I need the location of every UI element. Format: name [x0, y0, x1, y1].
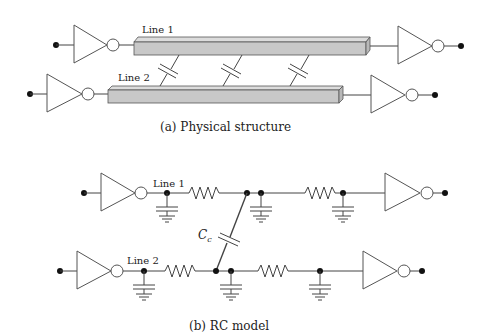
output-terminal-dot — [442, 190, 448, 196]
rc-line1-receiver-inverter — [385, 173, 448, 211]
rc-line2-receiver-inverter — [363, 251, 425, 289]
inverter-triangle-icon — [47, 74, 82, 112]
rc-model: Line 1 — [57, 173, 448, 333]
inverter-triangle-icon — [371, 75, 405, 113]
inverter-bubble-icon — [111, 265, 123, 277]
inverter-bubble-icon — [432, 40, 444, 52]
inverter-triangle-icon — [74, 25, 107, 63]
inverter-bubble-icon — [406, 89, 418, 101]
coupling-cap-label: Cc — [198, 228, 212, 244]
inverter-bubble-icon — [107, 39, 119, 51]
line1-receiver-inverter — [370, 26, 464, 64]
inverter-triangle-icon — [398, 26, 432, 64]
coupling-capacitor-3 — [288, 55, 309, 86]
line1-label: Line 1 — [142, 24, 174, 35]
inverter-bubble-icon — [135, 187, 147, 199]
physical-structure: Line 1 Line 2 — [27, 24, 464, 134]
crosstalk-diagram: Line 1 Line 2 — [0, 0, 477, 335]
rc-line2-ground-cap-3 — [309, 271, 331, 300]
rc-line2-wire — [123, 265, 363, 277]
coupling-capacitor-2 — [221, 55, 242, 86]
rc-line2-label: Line 2 — [127, 255, 159, 266]
inverter-triangle-icon — [77, 251, 111, 289]
inverter-triangle-icon — [385, 173, 420, 211]
line1-bar — [134, 37, 370, 55]
rc-line2-ground-cap-2 — [220, 271, 242, 300]
caption-physical-structure: (a) Physical structure — [160, 120, 291, 134]
line1-driver-inverter — [53, 25, 134, 63]
caption-rc-model: (b) RC model — [189, 319, 269, 333]
rc-line1-driver-inverter — [81, 173, 147, 211]
inverter-triangle-icon — [101, 173, 135, 211]
line2-label: Line 2 — [118, 72, 150, 83]
line2-receiver-inverter — [343, 75, 438, 113]
rc-line1-ground-cap-1 — [156, 193, 178, 222]
inverter-bubble-icon — [82, 88, 94, 100]
line2-driver-inverter — [27, 74, 108, 112]
output-terminal-dot — [432, 92, 438, 98]
rc-line2-driver-inverter — [57, 251, 123, 289]
inverter-triangle-icon — [363, 251, 397, 289]
coupling-capacitor-cc — [216, 193, 247, 271]
coupling-capacitor-1 — [158, 55, 179, 86]
inverter-bubble-icon — [421, 187, 433, 199]
inverter-bubble-icon — [398, 265, 410, 277]
output-terminal-dot — [419, 268, 425, 274]
rc-line1-label: Line 1 — [153, 178, 185, 189]
output-terminal-dot — [458, 43, 464, 49]
rc-line1-ground-cap-2 — [250, 193, 272, 222]
coupling-node-dot — [213, 268, 219, 274]
rc-line2-ground-cap-1 — [133, 271, 155, 300]
line2-bar — [108, 86, 343, 103]
rc-line1-ground-cap-3 — [332, 193, 354, 222]
